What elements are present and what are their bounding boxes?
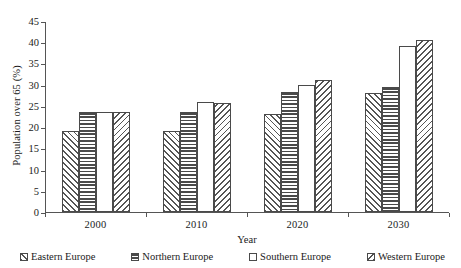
x-tick-label-2020: 2020 [247, 219, 348, 230]
bar-northern-europe-2030 [382, 87, 399, 212]
y-tick-mark [41, 86, 45, 87]
bar-eastern-europe-2010 [163, 131, 180, 212]
clipped-title-remnant [52, 0, 312, 2]
x-axis-separator [247, 213, 248, 217]
bar-southern-europe-2000 [96, 112, 113, 212]
legend-item-eastern-europe[interactable]: Eastern Europe [20, 251, 95, 262]
legend-label: Southern Europe [260, 251, 331, 262]
legend-swatch-eastern-europe-icon [20, 253, 28, 261]
y-tick-label: 15 [9, 144, 39, 155]
bar-western-europe-2030 [416, 40, 433, 212]
y-tick-label: 0 [9, 208, 39, 219]
bar-western-europe-2010 [214, 103, 231, 213]
y-tick-mark [41, 64, 45, 65]
bar-western-europe-2000 [113, 112, 130, 212]
y-tick-label: 25 [9, 102, 39, 113]
x-tick-label-2030: 2030 [348, 219, 449, 230]
y-tick-label: 5 [9, 187, 39, 198]
y-tick-mark [41, 107, 45, 108]
y-tick-label: 40 [9, 38, 39, 49]
x-tick-label-2000: 2000 [45, 219, 146, 230]
legend-item-northern-europe[interactable]: Northern Europe [131, 251, 213, 262]
bar-eastern-europe-2000 [62, 131, 79, 212]
legend-swatch-southern-europe-icon [249, 253, 257, 261]
legend-item-western-europe[interactable]: Western Europe [367, 251, 445, 262]
y-tick-mark [41, 43, 45, 44]
x-axis-separator [449, 213, 450, 217]
bar-western-europe-2020 [315, 80, 332, 212]
bar-southern-europe-2010 [197, 102, 214, 212]
bar-northern-europe-2000 [79, 112, 96, 212]
legend-swatch-western-europe-icon [367, 253, 375, 261]
chart-figure: Population over 65 (%) 05101520253035404… [0, 0, 461, 268]
y-tick-mark [41, 171, 45, 172]
y-tick-mark [41, 22, 45, 23]
bar-group-2000 [46, 22, 147, 212]
x-axis-tick-labels: 2000201020202030 [45, 219, 449, 230]
bar-northern-europe-2020 [281, 92, 298, 212]
x-axis-separator [348, 213, 349, 217]
bar-eastern-europe-2030 [365, 93, 382, 212]
bar-southern-europe-2020 [298, 85, 315, 212]
x-axis-separator [146, 213, 147, 217]
bar-group-2020 [248, 22, 349, 212]
y-tick-label: 45 [9, 17, 39, 28]
x-axis-title: Year [45, 234, 449, 245]
legend-label: Northern Europe [142, 251, 213, 262]
x-tick-label-2010: 2010 [146, 219, 247, 230]
y-tick-label: 10 [9, 165, 39, 176]
y-tick-mark [41, 149, 45, 150]
y-tick-label: 30 [9, 80, 39, 91]
legend-label: Eastern Europe [31, 251, 95, 262]
y-tick-label: 20 [9, 123, 39, 134]
legend-label: Western Europe [378, 251, 445, 262]
bar-groups [46, 22, 449, 212]
y-tick-label: 35 [9, 59, 39, 70]
legend-item-southern-europe[interactable]: Southern Europe [249, 251, 331, 262]
x-axis-separator [45, 213, 46, 217]
y-tick-mark [41, 128, 45, 129]
plot-area: 051015202530354045 [45, 22, 449, 213]
bar-eastern-europe-2020 [264, 114, 281, 212]
y-tick-mark [41, 192, 45, 193]
bar-group-2010 [147, 22, 248, 212]
bar-southern-europe-2030 [399, 46, 416, 212]
bar-northern-europe-2010 [180, 112, 197, 212]
legend-swatch-northern-europe-icon [131, 253, 139, 261]
chart-legend: Eastern EuropeNorthern EuropeSouthern Eu… [20, 251, 445, 262]
bar-group-2030 [348, 22, 449, 212]
